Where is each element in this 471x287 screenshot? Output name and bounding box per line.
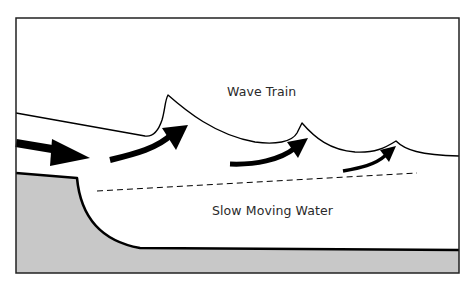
hydraulic-jump-diagram	[0, 0, 471, 287]
slow-moving-water-label: Slow Moving Water	[212, 203, 333, 218]
wave-train-label: Wave Train	[227, 84, 296, 99]
